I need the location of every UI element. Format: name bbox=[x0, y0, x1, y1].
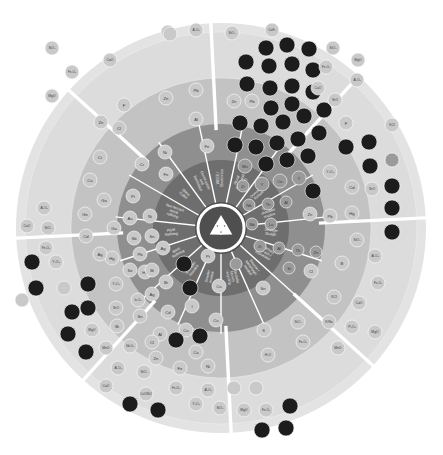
node-120[interactable]: In₂O₃ bbox=[131, 293, 145, 307]
node-67[interactable]: CaO bbox=[311, 81, 325, 95]
node-26[interactable] bbox=[258, 156, 274, 172]
node-113[interactable]: Ag bbox=[145, 287, 159, 301]
node-145[interactable]: SiO₂ bbox=[213, 401, 227, 415]
node-177[interactable] bbox=[176, 256, 192, 272]
node-148[interactable] bbox=[282, 398, 298, 414]
node-5[interactable] bbox=[284, 56, 300, 72]
node-158[interactable] bbox=[24, 254, 40, 270]
node-154[interactable]: Al₂O₃ bbox=[37, 201, 51, 215]
node-151[interactable]: Al₂O₃ bbox=[201, 383, 215, 397]
node-166[interactable]: Ag bbox=[156, 241, 170, 255]
node-123[interactable] bbox=[64, 304, 80, 320]
node-167[interactable]: Pt bbox=[126, 189, 140, 203]
node-24[interactable] bbox=[311, 125, 327, 141]
node-87[interactable]: Zn bbox=[303, 207, 317, 221]
node-34[interactable]: Th bbox=[262, 198, 274, 210]
node-86[interactable]: SrO bbox=[365, 182, 379, 196]
node-97[interactable]: MgO bbox=[368, 325, 382, 339]
node-39[interactable]: Al bbox=[273, 242, 285, 254]
node-92[interactable]: CaO bbox=[352, 296, 366, 310]
node-37[interactable]: La bbox=[265, 218, 277, 230]
node-121[interactable]: Br bbox=[159, 275, 173, 289]
node-45[interactable]: Cl bbox=[112, 121, 126, 135]
node-64[interactable]: MgO bbox=[351, 53, 365, 67]
node-141[interactable]: Fe₂O₃ bbox=[169, 381, 183, 395]
node-164[interactable]: Pb bbox=[133, 247, 147, 261]
node-22[interactable] bbox=[269, 135, 285, 151]
node-12[interactable] bbox=[263, 100, 279, 116]
node-23[interactable] bbox=[290, 131, 306, 147]
node-8[interactable] bbox=[262, 80, 278, 96]
node-61[interactable] bbox=[163, 27, 177, 41]
node-90[interactable]: Al₂O₃ bbox=[368, 249, 382, 263]
node-31[interactable]: Ce bbox=[273, 174, 287, 188]
node-56[interactable]: Fe₂O₃ bbox=[65, 65, 79, 79]
node-33[interactable]: Nb bbox=[243, 199, 255, 211]
node-159[interactable] bbox=[28, 280, 44, 296]
node-57[interactable]: MgO bbox=[45, 89, 59, 103]
node-60[interactable]: Al₂O₃ bbox=[189, 23, 203, 37]
node-102[interactable]: SiO₂ bbox=[291, 315, 305, 329]
node-73[interactable] bbox=[338, 139, 354, 155]
node-77[interactable] bbox=[384, 178, 400, 194]
node-66[interactable]: Al₂O₃ bbox=[350, 73, 364, 87]
node-9[interactable] bbox=[284, 78, 300, 94]
node-112[interactable]: Cu bbox=[212, 279, 226, 293]
node-132[interactable]: MnO bbox=[99, 341, 113, 355]
node-74[interactable] bbox=[361, 134, 377, 150]
node-38[interactable]: Zr bbox=[254, 240, 266, 252]
node-149[interactable] bbox=[278, 420, 294, 436]
node-28[interactable] bbox=[300, 148, 316, 164]
node-137[interactable]: Al₂O₃ bbox=[111, 361, 125, 375]
node-179[interactable]: Pt bbox=[201, 249, 215, 263]
node-81[interactable]: Hg bbox=[345, 206, 359, 220]
node-122[interactable] bbox=[182, 280, 198, 296]
node-170[interactable]: Ga bbox=[107, 221, 121, 235]
node-176[interactable]: Bi bbox=[145, 263, 159, 277]
node-52[interactable]: Fe bbox=[200, 139, 214, 153]
node-108[interactable]: Ca bbox=[189, 345, 203, 359]
node-53[interactable]: Cr bbox=[93, 150, 107, 164]
node-161[interactable]: Ge bbox=[78, 207, 92, 221]
node-99[interactable]: Cl bbox=[304, 264, 318, 278]
node-21[interactable] bbox=[248, 139, 264, 155]
node-35[interactable]: Al bbox=[280, 196, 292, 208]
node-104[interactable]: H₂O bbox=[261, 348, 275, 362]
node-134[interactable]: Cl bbox=[145, 335, 159, 349]
node-50[interactable]: Cr bbox=[135, 157, 149, 171]
node-71[interactable]: F bbox=[339, 116, 353, 130]
node-4[interactable] bbox=[261, 58, 277, 74]
node-76[interactable] bbox=[362, 158, 378, 174]
node-142[interactable] bbox=[122, 396, 138, 412]
node-182[interactable] bbox=[57, 281, 71, 295]
node-147[interactable]: Fe₂O₃ bbox=[259, 403, 273, 417]
node-49[interactable]: Ni bbox=[158, 145, 172, 159]
node-180[interactable] bbox=[230, 258, 242, 270]
node-91[interactable]: Fe₂O₃ bbox=[371, 276, 385, 290]
node-1[interactable] bbox=[279, 37, 295, 53]
node-98[interactable]: MnO bbox=[331, 341, 345, 355]
node-89[interactable]: SiO₂ bbox=[350, 233, 364, 247]
node-126[interactable]: Bi bbox=[110, 319, 124, 333]
node-125[interactable]: MgO bbox=[85, 323, 99, 337]
node-174[interactable]: Ag bbox=[93, 247, 107, 261]
node-172[interactable]: Sn bbox=[145, 229, 159, 243]
node-29[interactable]: Zr bbox=[237, 180, 249, 192]
node-124[interactable] bbox=[60, 326, 76, 342]
node-165[interactable]: Ga bbox=[97, 193, 111, 207]
node-6[interactable] bbox=[305, 62, 321, 78]
node-44[interactable]: F bbox=[117, 98, 131, 112]
node-20[interactable] bbox=[227, 137, 243, 153]
node-51[interactable]: Fe bbox=[159, 167, 173, 181]
node-138[interactable]: CaO bbox=[99, 379, 113, 393]
node-116[interactable]: Y₂O₃ bbox=[109, 277, 123, 291]
node-144[interactable]: Y₂O₃ bbox=[189, 397, 203, 411]
node-82[interactable] bbox=[305, 183, 321, 199]
node-156[interactable]: CaO bbox=[20, 219, 34, 233]
node-139[interactable]: SiO₂ bbox=[137, 365, 151, 379]
node-93[interactable]: KCl bbox=[327, 290, 341, 304]
node-143[interactable] bbox=[150, 402, 166, 418]
node-136[interactable] bbox=[192, 328, 208, 344]
node-3[interactable] bbox=[238, 54, 254, 70]
node-46[interactable]: Zn bbox=[94, 115, 108, 129]
